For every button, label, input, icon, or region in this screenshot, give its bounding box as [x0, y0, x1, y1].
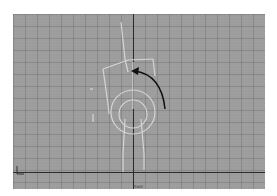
viewport-front[interactable]: Front: [13, 14, 265, 189]
rotate-arrow-icon[interactable]: [13, 14, 265, 189]
viewport-label[interactable]: Front: [133, 184, 143, 189]
axis-tripod-icon: [15, 164, 25, 176]
